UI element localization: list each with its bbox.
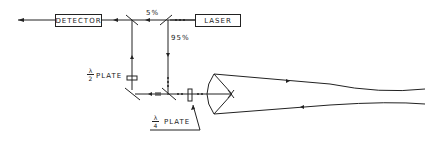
- fraction-denominator: 2: [89, 75, 93, 82]
- arrow-left-icon: [300, 105, 304, 109]
- quarter-wave-fraction: λ 4: [152, 114, 159, 129]
- polarization-dot: [175, 19, 177, 21]
- fraction-numerator: λ: [89, 67, 93, 74]
- fraction-numerator: λ: [154, 114, 158, 121]
- polarization-dot: [183, 19, 185, 21]
- quarter-wave-plate-label: PLATE: [164, 118, 190, 126]
- fraction-denominator: 4: [154, 122, 158, 129]
- half-wave-plate-label: PLATE: [96, 72, 122, 80]
- quarter-wave-plate: [188, 89, 192, 101]
- label-5-percent: 5%: [146, 9, 159, 17]
- polarization-dot: [167, 77, 169, 79]
- arrow-down-icon: [166, 53, 170, 57]
- polarization-dot: [179, 19, 181, 21]
- arrow-up-icon: [130, 55, 134, 59]
- polarization-dot: [181, 93, 183, 95]
- polarization-dot: [197, 93, 199, 95]
- polarization-dot: [201, 93, 203, 95]
- output-beam-top: [214, 74, 425, 91]
- arrow-left-icon: [145, 18, 150, 22]
- laser-box: LASER: [195, 14, 241, 27]
- polarization-dot: [177, 93, 179, 95]
- detector-box: DETECTOR: [55, 14, 102, 27]
- polarization-dot: [167, 85, 169, 87]
- half-wave-fraction: λ 2: [87, 67, 94, 82]
- arrow-left-icon: [18, 18, 24, 22]
- label-95-percent: 95%: [171, 34, 190, 42]
- arrow-right-icon: [286, 79, 290, 83]
- output-beam-bottom: [214, 103, 425, 114]
- arrow-left-icon: [113, 18, 118, 22]
- polarization-dot: [167, 81, 169, 83]
- arrow-left-icon: [148, 92, 152, 96]
